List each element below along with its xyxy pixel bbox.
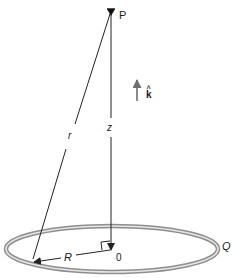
- radius-arrow: [34, 250, 110, 262]
- right-angle-marker: [101, 241, 110, 250]
- charged-ring-diagram: P k ^ r z R 0 Q: [0, 0, 238, 278]
- point-p-label: P: [119, 9, 126, 21]
- charge-q-label: Q: [222, 240, 231, 252]
- r-label: r: [68, 130, 72, 141]
- unit-vector-hat: ^: [147, 85, 151, 92]
- point-p-marker: [107, 9, 115, 16]
- radius-label: R: [64, 251, 72, 263]
- r-vector: [33, 14, 110, 259]
- charged-ring: [6, 226, 218, 272]
- z-label: z: [106, 122, 112, 133]
- origin-label: 0: [116, 252, 122, 263]
